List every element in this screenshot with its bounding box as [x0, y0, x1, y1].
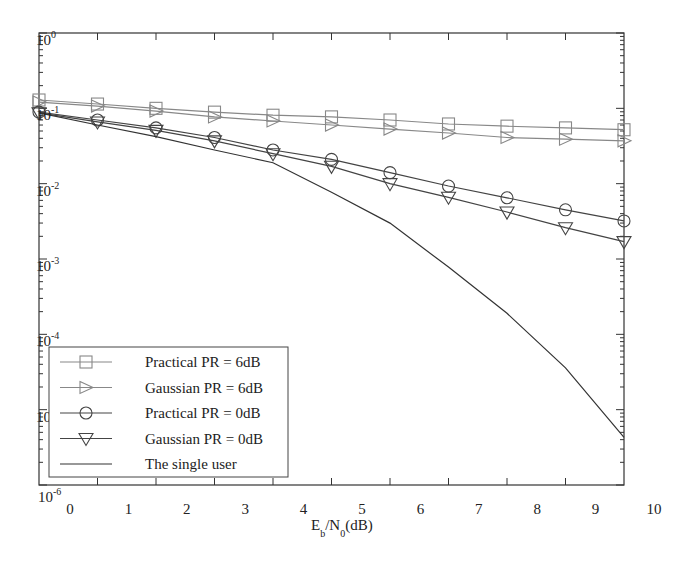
- series-gaussian-pr-6db: [33, 96, 631, 147]
- legend-label: Gaussian PR = 0dB: [145, 431, 263, 447]
- y-tick-label: 10-4: [36, 330, 59, 349]
- x-tick-label: 6: [417, 501, 425, 517]
- x-tick-label: 3: [241, 501, 249, 517]
- legend-label: The single user: [145, 456, 237, 472]
- y-tick-label: 10-1: [36, 104, 59, 123]
- x-tick-label: 7: [475, 501, 483, 517]
- x-tick-label: 0: [66, 501, 74, 517]
- x-axis-title: Eb/N0(dB): [311, 517, 373, 539]
- legend-item: Practical PR = 6dB: [60, 354, 261, 370]
- legend-label: Practical PR = 0dB: [145, 405, 261, 421]
- y-tick-label: 10-2: [36, 180, 59, 199]
- y-tick-label: 10-6: [38, 486, 61, 505]
- legend-label: Gaussian PR = 6dB: [145, 380, 263, 396]
- x-tick-label: 2: [183, 501, 191, 517]
- x-tick-labels: 012345678910: [66, 501, 661, 517]
- y-tick-label: 10-3: [36, 255, 59, 274]
- legend: Practical PR = 6dBGaussian PR = 6dBPract…: [49, 347, 288, 477]
- y-tick-label: 100: [36, 29, 56, 48]
- ber-chart: 10010-110-210-310-410-510-6 012345678910…: [0, 0, 692, 580]
- x-tick-label: 10: [647, 501, 662, 517]
- x-tick-label: 4: [300, 501, 308, 517]
- x-tick-label: 5: [358, 501, 366, 517]
- series-gaussian-pr-0db: [32, 108, 631, 249]
- legend-label: Practical PR = 6dB: [145, 354, 261, 370]
- x-tick-label: 9: [592, 501, 600, 517]
- x-tick-label: 8: [533, 501, 541, 517]
- series-line: [39, 113, 624, 242]
- x-tick-label: 1: [125, 501, 133, 517]
